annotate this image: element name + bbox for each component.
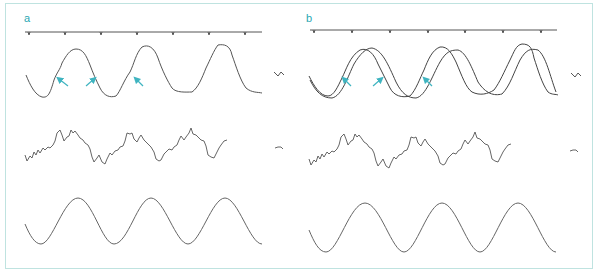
recorded-waveform-a	[26, 45, 262, 97]
arrow-icon-b2	[373, 79, 381, 86]
scale-mark-a-mid	[275, 147, 283, 149]
fitted-curve-b	[310, 48, 556, 98]
arrow-icon-a1	[59, 79, 68, 86]
recorded-waveform-b	[309, 44, 558, 97]
scale-mark-b-mid	[570, 150, 578, 152]
arrow-icon-a2	[86, 79, 94, 86]
reference-sinusoid-a	[25, 198, 262, 244]
noisy-signal-a	[25, 128, 227, 164]
panel-a	[25, 32, 284, 244]
scale-mark-b-top	[571, 73, 581, 77]
scale-mark-a-top	[274, 72, 284, 76]
figure-plots	[0, 0, 598, 275]
event-marker-timeline-b	[310, 30, 557, 33]
event-marker-timeline-a	[25, 32, 262, 35]
panel-b	[309, 30, 581, 252]
arrow-icon-a3	[136, 79, 143, 86]
noisy-signal-b	[309, 132, 511, 168]
reference-sinusoid-b	[309, 203, 556, 252]
